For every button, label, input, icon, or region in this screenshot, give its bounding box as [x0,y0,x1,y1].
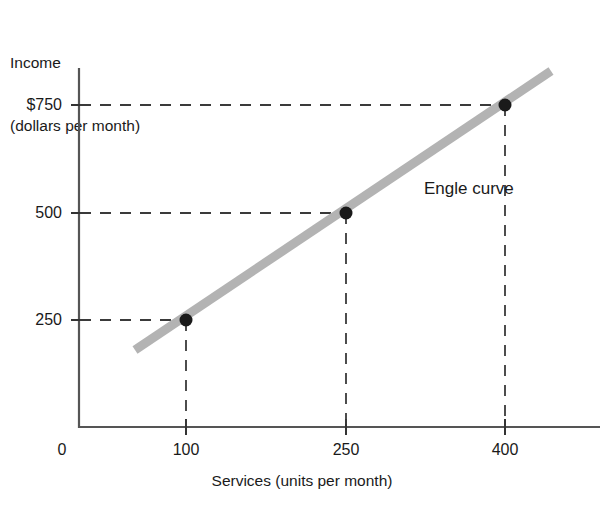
data-point-400-750 [499,99,512,112]
plot-area [0,0,604,507]
x-axis-title: Services (units per month) [0,470,604,491]
y-tick-label-250: 250 [0,311,62,329]
x-tick-label-250: 250 [333,441,360,459]
x-tick-label-100: 100 [173,441,200,459]
data-point-100-250 [180,314,193,327]
data-point-250-500 [340,207,353,220]
y-tick-label-750: $750 [0,96,62,114]
x-tick-label-0: 0 [58,441,67,459]
engle-curve-annotation: Engle curve [424,179,514,199]
y-tick-label-500: 500 [0,204,62,222]
x-tick-label-400: 400 [492,441,519,459]
engle-curve-chart: Income (dollars per month) $750 500 250 [0,0,604,507]
